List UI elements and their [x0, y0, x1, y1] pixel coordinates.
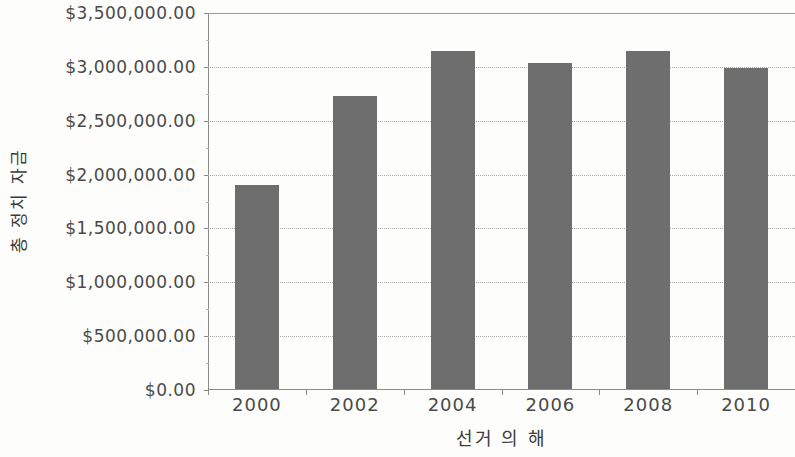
y-axis-tick-label: $500,000.00	[82, 326, 196, 346]
y-axis-tick-label: $3,500,000.00	[65, 3, 196, 23]
y-axis-tick-label: $1,500,000.00	[65, 218, 196, 238]
x-axis-tick-label: 2010	[721, 394, 771, 415]
gridline	[208, 228, 795, 229]
bar-chart: 총 정치 자금 $0.00$500,000.00$1,000,000.00$1,…	[0, 0, 795, 457]
x-axis-title: 선거 의 해	[208, 424, 795, 450]
x-axis-tick-label: 2000	[232, 394, 282, 415]
x-axis-title-label: 선거 의 해	[456, 428, 547, 449]
gridline	[208, 336, 795, 337]
y-axis-title-label: 총 정치 자금	[5, 148, 30, 253]
bar	[724, 68, 768, 390]
y-axis-tick-label: $0.00	[145, 380, 196, 400]
gridline	[208, 175, 795, 176]
bar	[235, 185, 279, 390]
bar	[528, 63, 572, 390]
y-axis-tick-label: $1,000,000.00	[65, 272, 196, 292]
x-axis-tick-label: 2008	[623, 394, 673, 415]
x-axis-tick-label: 2006	[526, 394, 576, 415]
y-axis-tick-label: $2,000,000.00	[65, 165, 196, 185]
plot-area	[208, 13, 795, 390]
gridline	[208, 282, 795, 283]
x-axis-tick-label: 2002	[330, 394, 380, 415]
gridline	[208, 13, 795, 14]
y-axis-tick-labels: $0.00$500,000.00$1,000,000.00$1,500,000.…	[30, 0, 202, 400]
bar	[431, 51, 475, 390]
bar	[333, 96, 377, 390]
y-axis-tick-label: $2,500,000.00	[65, 111, 196, 131]
bar	[626, 51, 670, 390]
y-axis-tick-label: $3,000,000.00	[65, 57, 196, 77]
gridline	[208, 67, 795, 68]
gridline	[208, 121, 795, 122]
x-axis-tick-label: 2004	[428, 394, 478, 415]
x-axis-tick-labels: 200020022004200620082010	[208, 394, 795, 422]
y-axis-title: 총 정치 자금	[0, 0, 34, 400]
